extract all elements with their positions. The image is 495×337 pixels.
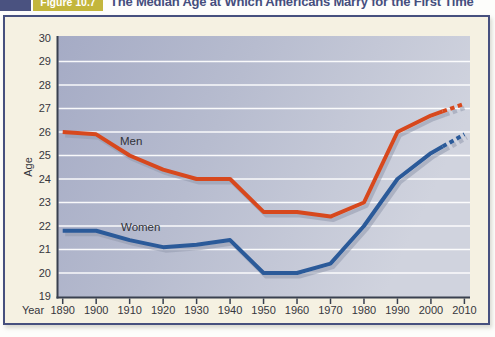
plot-area <box>58 36 471 298</box>
y-axis-title: Age <box>22 147 36 187</box>
x-tick-label-1950: 1950 <box>247 304 281 317</box>
y-tick-label-27: 27 <box>21 102 51 115</box>
y-tick-label-21: 21 <box>21 243 51 256</box>
y-tick-label-20: 20 <box>21 267 51 280</box>
y-tick-label-23: 23 <box>21 196 51 209</box>
x-tick-label-1920: 1920 <box>146 304 180 317</box>
x-tick-label-1990: 1990 <box>380 304 414 317</box>
x-tick-label-2010: 2010 <box>447 304 481 317</box>
figure-page: Figure 10.7 The Median Age at Which Amer… <box>0 0 495 337</box>
x-tick-label-1910: 1910 <box>113 304 147 317</box>
y-tick-label-19: 19 <box>21 290 51 303</box>
y-tick-label-30: 30 <box>21 32 51 45</box>
median-marriage-age-line-chart <box>0 0 495 337</box>
x-tick-label-2000: 2000 <box>414 304 448 317</box>
x-tick-label-1970: 1970 <box>314 304 348 317</box>
y-tick-label-29: 29 <box>21 55 51 68</box>
y-tick-label-26: 26 <box>21 126 51 139</box>
x-tick-label-1930: 1930 <box>180 304 214 317</box>
x-axis-title: Year <box>16 304 50 317</box>
y-tick-label-22: 22 <box>21 220 51 233</box>
y-tick-label-28: 28 <box>21 79 51 92</box>
series-label-men: Men <box>120 135 142 148</box>
series-label-women: Women <box>121 221 160 234</box>
x-tick-label-1960: 1960 <box>280 304 314 317</box>
x-tick-label-1940: 1940 <box>213 304 247 317</box>
x-tick-label-1980: 1980 <box>347 304 381 317</box>
x-tick-label-1890: 1890 <box>46 304 80 317</box>
x-tick-label-1900: 1900 <box>79 304 113 317</box>
